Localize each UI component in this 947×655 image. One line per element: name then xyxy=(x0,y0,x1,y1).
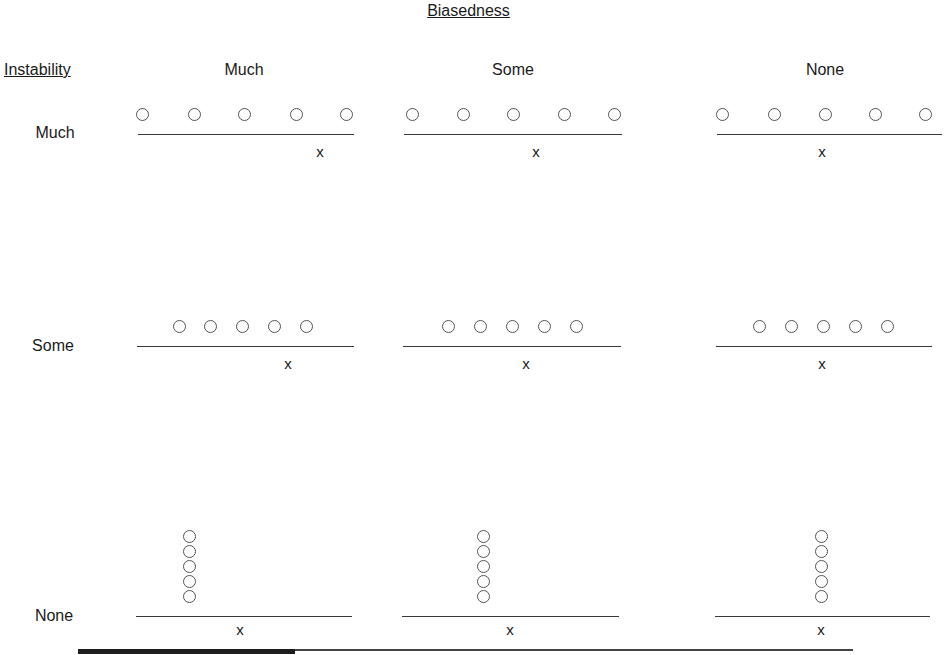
x-marker: x xyxy=(280,355,296,372)
circle-icon xyxy=(538,320,551,333)
circle-icon xyxy=(268,320,281,333)
circle-icon xyxy=(716,108,729,121)
circle-icon xyxy=(785,320,798,333)
circle-icon xyxy=(570,320,583,333)
row-label-much: Much xyxy=(10,124,100,142)
circle-icon xyxy=(183,590,196,603)
circle-icon xyxy=(815,590,828,603)
circle-icon xyxy=(768,108,781,121)
circle-icon xyxy=(815,575,828,588)
circle-icon xyxy=(815,530,828,543)
circle-icon xyxy=(474,320,487,333)
circle-icon xyxy=(188,108,201,121)
x-marker: x xyxy=(814,355,830,372)
bottom-rule-thick xyxy=(78,649,295,654)
circle-icon xyxy=(183,530,196,543)
circle-icon xyxy=(183,560,196,573)
row-label-none: None xyxy=(9,607,99,625)
x-marker: x xyxy=(528,143,544,160)
circle-icon xyxy=(340,108,353,121)
circle-icon xyxy=(558,108,571,121)
circle-icon xyxy=(919,108,932,121)
baseline-rule xyxy=(403,346,621,347)
circle-icon xyxy=(457,108,470,121)
x-marker: x xyxy=(814,143,830,160)
baseline-rule xyxy=(138,134,354,135)
baseline-rule xyxy=(136,616,352,617)
baseline-rule xyxy=(137,346,354,347)
circle-icon xyxy=(406,108,419,121)
circle-icon xyxy=(290,108,303,121)
circle-icon xyxy=(477,575,490,588)
bottom-rule-thin xyxy=(295,649,853,651)
diagram-title: Biasedness xyxy=(0,2,937,20)
column-label-none: None xyxy=(765,61,885,79)
circle-icon xyxy=(300,320,313,333)
circle-icon xyxy=(136,108,149,121)
circle-icon xyxy=(817,320,830,333)
circle-icon xyxy=(204,320,217,333)
diagram: Biasedness Instability Much Some None Mu… xyxy=(0,0,947,655)
circle-icon xyxy=(477,545,490,558)
circle-icon xyxy=(442,320,455,333)
circle-icon xyxy=(236,320,249,333)
column-label-some: Some xyxy=(453,61,573,79)
x-marker: x xyxy=(813,621,829,638)
circle-icon xyxy=(477,530,490,543)
circle-icon xyxy=(238,108,251,121)
baseline-rule xyxy=(716,346,932,347)
circle-icon xyxy=(477,560,490,573)
row-label-some: Some xyxy=(8,337,98,355)
x-marker: x xyxy=(518,355,534,372)
x-marker: x xyxy=(502,621,518,638)
x-marker: x xyxy=(312,143,328,160)
circle-icon xyxy=(869,108,882,121)
circle-icon xyxy=(507,108,520,121)
baseline-rule xyxy=(715,616,930,617)
circle-icon xyxy=(173,320,186,333)
circle-icon xyxy=(477,590,490,603)
circle-icon xyxy=(753,320,766,333)
x-marker: x xyxy=(232,621,248,638)
circle-icon xyxy=(819,108,832,121)
circle-icon xyxy=(881,320,894,333)
circle-icon xyxy=(815,560,828,573)
circle-icon xyxy=(183,545,196,558)
baseline-rule xyxy=(404,134,622,135)
circle-icon xyxy=(183,575,196,588)
baseline-rule xyxy=(402,616,619,617)
circle-icon xyxy=(815,545,828,558)
column-label-much: Much xyxy=(184,61,304,79)
circle-icon xyxy=(506,320,519,333)
circle-icon xyxy=(849,320,862,333)
row-axis-header: Instability xyxy=(4,61,71,79)
circle-icon xyxy=(608,108,621,121)
baseline-rule xyxy=(717,134,942,135)
